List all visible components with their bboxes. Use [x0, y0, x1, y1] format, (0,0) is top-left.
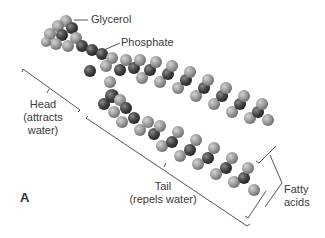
fatty-acids-label-line2: acids — [284, 196, 310, 209]
panel-label: A — [20, 190, 29, 205]
tail-label-line2: (repels water) — [118, 193, 208, 206]
glycerol-label: Glycerol — [91, 13, 131, 26]
fatty-acids-label-line1: Fatty — [284, 183, 310, 196]
glycerol-group — [41, 15, 88, 52]
fatty-acid-chain-upper — [120, 54, 274, 126]
tail-label-line1: Tail — [118, 180, 208, 193]
fatty-acids-label: Fatty acids — [284, 183, 310, 209]
tail-bracket-tick — [164, 163, 166, 167]
head-label-line2: (attracts — [18, 111, 68, 124]
tail-label: Tail (repels water) — [118, 180, 208, 206]
fatty-acids-bracket — [265, 155, 282, 207]
head-label-line3: water) — [18, 124, 68, 137]
head-label-line1: Head — [18, 98, 68, 111]
head-bracket-tick — [47, 89, 49, 93]
phosphate-leader-line — [104, 43, 120, 50]
phosphate-label: Phosphate — [121, 36, 174, 49]
fatty-acid-end-upper — [256, 146, 276, 163]
head-label: Head (attracts water) — [18, 98, 68, 137]
phosphate-group — [84, 44, 126, 110]
